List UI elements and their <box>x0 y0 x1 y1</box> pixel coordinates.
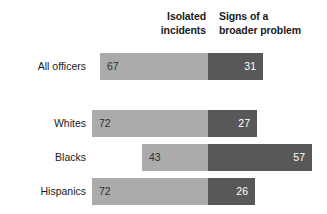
bar-segment-broader-problem: 57 <box>208 144 312 171</box>
bar-value-broader-problem: 26 <box>236 178 248 205</box>
row-label: Whites <box>54 110 86 137</box>
bar-value-isolated-incidents: 43 <box>149 144 161 171</box>
bar-segment-broader-problem: 31 <box>208 53 263 80</box>
bar-value-isolated-incidents: 72 <box>99 178 111 205</box>
row-label: All officers <box>38 53 86 80</box>
bar-value-broader-problem: 31 <box>244 53 256 80</box>
bar-value-isolated-incidents: 67 <box>107 53 119 80</box>
legend-header-isolated-incidents-line1: Isolated <box>86 10 206 24</box>
legend-header-isolated-incidents: Isolated incidents <box>86 10 206 37</box>
bar-segment-broader-problem: 27 <box>208 110 257 137</box>
bar-segment-broader-problem: 26 <box>208 178 255 205</box>
chart-row: Whites 72 27 <box>0 110 327 137</box>
bar-segment-isolated-incidents: 72 <box>92 110 208 137</box>
bar-segment-isolated-incidents: 43 <box>142 144 208 171</box>
bar-value-broader-problem: 27 <box>238 110 250 137</box>
legend-header-isolated-incidents-line2: incidents <box>86 24 206 38</box>
bar-value-broader-problem: 57 <box>293 144 305 171</box>
chart-row: Hispanics 72 26 <box>0 178 327 205</box>
diverging-bar-chart: Isolated incidents Signs of a broader pr… <box>0 0 327 214</box>
legend-header-broader-problem-line2: broader problem <box>219 24 327 38</box>
legend-header-broader-problem-line1: Signs of a <box>219 10 327 24</box>
bar-segment-isolated-incidents: 72 <box>92 178 208 205</box>
chart-row: Blacks 43 57 <box>0 144 327 171</box>
legend-header-broader-problem: Signs of a broader problem <box>219 10 327 37</box>
bar-value-isolated-incidents: 72 <box>99 110 111 137</box>
row-label: Hispanics <box>40 178 86 205</box>
row-label: Blacks <box>55 144 86 171</box>
chart-row: All officers 67 31 <box>0 53 327 80</box>
bar-segment-isolated-incidents: 67 <box>100 53 208 80</box>
